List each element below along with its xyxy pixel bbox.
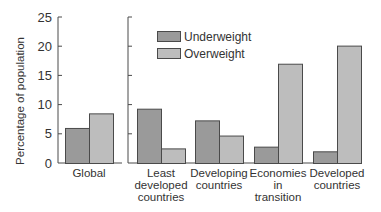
y-tick-label: 5	[45, 126, 52, 141]
category-label: Developed	[310, 167, 365, 179]
category-label: transition	[255, 191, 302, 203]
bar-chart: 0510152025 GlobalLeastdevelopedcountries…	[0, 0, 381, 212]
category-label: countries	[138, 191, 185, 203]
y-tick-label: 0	[45, 156, 52, 171]
y-tick-label: 25	[38, 10, 52, 25]
bar-group	[138, 109, 186, 163]
category-label: developed	[134, 179, 187, 191]
legend: UnderweightOverweight	[158, 30, 253, 61]
y-tick-label: 20	[38, 39, 52, 54]
category-labels: GlobalLeastdevelopedcountriesDevelopingc…	[72, 167, 364, 203]
legend-label-underweight: Underweight	[184, 30, 252, 44]
bar-overweight	[90, 114, 114, 164]
bar-underweight	[314, 152, 338, 164]
bar-underweight	[255, 147, 279, 163]
category-label: countries	[196, 179, 243, 191]
y-tick-label: 10	[38, 97, 52, 112]
category-label: Global	[72, 167, 105, 179]
bar-underweight	[138, 109, 162, 163]
legend-swatch-overweight	[158, 49, 181, 59]
category-label: Economies	[250, 167, 307, 179]
y-tick-label: 15	[38, 68, 52, 83]
bar-group	[196, 121, 244, 164]
bar-overweight	[162, 149, 186, 164]
bar-overweight	[279, 64, 303, 163]
bar-underweight	[196, 121, 220, 164]
category-label: Developing	[190, 167, 248, 179]
legend-swatch-underweight	[158, 32, 181, 42]
bars	[66, 46, 362, 163]
bar-group	[255, 64, 303, 163]
category-label: countries	[314, 179, 361, 191]
y-axis-title: Percentage of population	[14, 37, 26, 165]
bar-group	[314, 46, 362, 163]
bar-overweight	[220, 136, 244, 163]
category-label: Least	[147, 167, 176, 179]
category-label: in	[274, 179, 283, 191]
bar-underweight	[66, 128, 90, 163]
legend-label-overweight: Overweight	[184, 47, 245, 61]
bar-overweight	[338, 46, 362, 163]
bar-group	[66, 114, 114, 164]
